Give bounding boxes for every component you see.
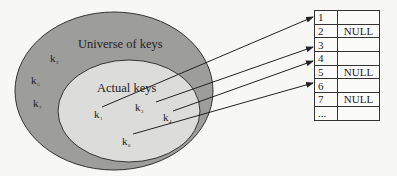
slot-value (338, 79, 380, 93)
direct-address-table: 1 2NULL 3 4 5NULL 6 7NULL ... (314, 10, 380, 121)
table-row: ... (315, 106, 380, 120)
slot-value (338, 38, 380, 52)
slot-index: 6 (315, 79, 338, 93)
slot-value (338, 11, 380, 25)
table-row: 4 (315, 52, 380, 66)
slot-value: NULL (338, 93, 380, 107)
slot-value: NULL (338, 65, 380, 79)
table-row: 5NULL (315, 65, 380, 79)
slot-index: 2 (315, 24, 338, 38)
slot-index: 1 (315, 11, 338, 25)
table-row: 2NULL (315, 24, 380, 38)
table-row: 1 (315, 11, 380, 25)
slot-index: 4 (315, 52, 338, 66)
slot-index: 5 (315, 65, 338, 79)
table-row: 7NULL (315, 93, 380, 107)
slot-value: NULL (338, 24, 380, 38)
universe-label: Universe of keys (78, 37, 163, 51)
slot-index: 3 (315, 38, 338, 52)
slot-value (338, 106, 380, 120)
slot-index: ... (315, 106, 338, 120)
slot-value (338, 52, 380, 66)
slot-index: 7 (315, 93, 338, 107)
table-row: 6 (315, 79, 380, 93)
table-row: 3 (315, 38, 380, 52)
